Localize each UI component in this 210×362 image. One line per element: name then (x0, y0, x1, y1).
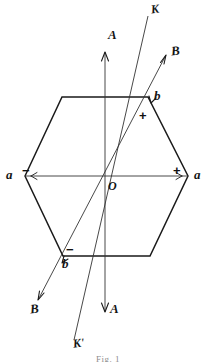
axis-B-top-arrowhead-icon (161, 55, 167, 64)
figure-caption: Fig. 1 (96, 355, 120, 362)
vertex-a-right-label: a (194, 168, 201, 181)
axis-B-line (38, 55, 166, 300)
axis-B-bottom-arrowhead-icon (38, 291, 44, 300)
axis-A-top-label: A (108, 28, 117, 41)
axis-K-top-label: K (150, 3, 160, 16)
vertex-b-upper-right-label: b (154, 89, 161, 102)
axis-B-bottom-label: B (29, 302, 39, 316)
vertex-b-lower-left-label: b (62, 257, 69, 270)
sign-upper-right-plus: + (139, 109, 147, 122)
sign-right-plus: + (173, 164, 181, 177)
axis-K-line (74, 16, 148, 340)
axis-K-bottom-label: K' (72, 336, 85, 349)
origin-label: O (108, 180, 117, 192)
axis-B-top-label: B (170, 44, 180, 58)
sign-lower-left-minus: − (66, 243, 74, 256)
vertex-a-left-label: a (6, 168, 13, 181)
sign-left-minus: − (22, 164, 30, 177)
axis-A-bottom-label: A (110, 302, 119, 315)
hexagon-outline (25, 97, 188, 256)
figure-container: A A B B K K' a a b b O − + + − Fig. 1 (0, 0, 210, 362)
